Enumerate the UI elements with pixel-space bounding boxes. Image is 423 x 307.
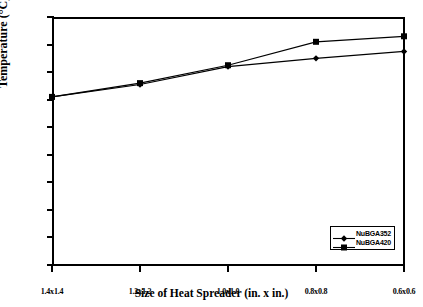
diamond-marker-icon [333,229,355,238]
legend-label: NuBGA420 [355,239,391,246]
data-point-square [341,245,347,251]
legend-item-NuBGA352: NuBGA352 [333,229,391,238]
data-point-square [401,33,407,39]
data-point-square [137,80,143,86]
data-point-square [225,62,231,68]
data-point-diamond [313,55,319,61]
square-marker-icon [333,238,355,247]
data-point-diamond [401,48,407,54]
y-axis-title: Temperature (°C) [0,0,11,88]
chart-legend: NuBGA352NuBGA420 [330,226,395,250]
data-point-square [49,94,55,100]
chart-figure: 0.01.02.03.04.05.06.07.08.09.0 1.4x1.41.… [0,0,423,307]
series-layer [0,0,423,307]
x-axis-title: Size of Heat Spreader (in. x in.) [0,287,423,299]
series-line [52,51,404,96]
legend-label: NuBGA352 [355,230,391,237]
data-point-square [313,39,319,45]
series-NuBGA352 [49,48,407,100]
legend-item-NuBGA420: NuBGA420 [333,238,391,247]
